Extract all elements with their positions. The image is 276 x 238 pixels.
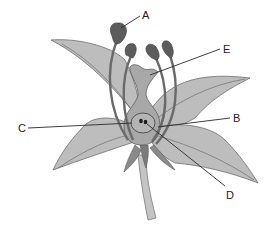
ovule: [144, 120, 148, 125]
ovary: [131, 113, 155, 133]
leader-line-e: [150, 49, 220, 75]
label-d: D: [226, 190, 234, 201]
label-e: E: [223, 44, 230, 55]
label-b: B: [233, 113, 240, 124]
ovule: [139, 119, 143, 124]
anther: [125, 44, 136, 58]
label-a: A: [142, 10, 149, 21]
anther: [146, 44, 159, 60]
leader-line-a: [121, 16, 140, 28]
anther: [162, 41, 173, 58]
label-c: C: [18, 123, 26, 134]
